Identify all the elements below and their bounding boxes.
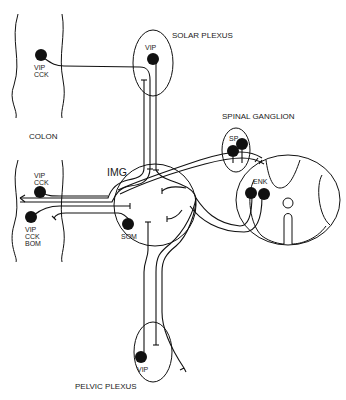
img-som-cell [122,218,134,230]
colon-cell-lower-label-3: BOM [25,240,41,247]
colon-cell-mid-label-2: CCK [34,179,49,186]
pelvic-plexus-cell-label: VIP [137,366,149,373]
colon-cell-upper-label-2: CCK [34,71,49,78]
spinal-ganglion-cell-label: SP [229,135,239,142]
img-som-label: SOM [121,233,137,240]
spinal-cord-enk-cell-1 [245,187,257,199]
solar-plexus-label: SOLAR PLEXUS [172,31,233,40]
spinal-cord-enk-label: ENK [253,178,268,185]
central-canal [283,198,293,208]
colon-cell-mid [34,186,46,198]
neural-pathway-diagram: VIP CCK VIP CCK VIP CCK BOM COLON VIP SO… [0,0,346,400]
colon-cell-mid-label-1: VIP [34,172,46,179]
pelvic-plexus-label: PELVIC PLEXUS [75,382,137,391]
fiber-img-colon-return [54,213,131,222]
fiber-colon-lower [34,206,130,215]
fiber-img-to-pelvic-1 [144,222,148,330]
colon-cell-lower [25,211,37,223]
spinal-ganglion-label: SPINAL GANGLION [222,112,295,121]
img-label: IMG [107,166,127,178]
colon-cell-upper-label-1: VIP [34,64,46,71]
spinal-cord-enk-cell-2 [258,188,270,200]
colon-cell-lower-label-1: VIP [25,226,37,233]
spinal-ganglion-cell-2 [227,145,239,157]
fiber-enk-to-img [196,195,252,226]
pelvic-plexus-cell [135,351,147,363]
solar-plexus-cell-label: VIP [145,44,157,51]
colon-label: COLON [29,132,58,141]
solar-plexus-cell [147,53,159,65]
fiber-img-to-pelvic-3 [162,198,196,368]
fiber-img-spinal-2 [120,158,264,194]
colon-cell-lower-label-2: CCK [25,233,40,240]
dorsal-horn [266,160,300,188]
